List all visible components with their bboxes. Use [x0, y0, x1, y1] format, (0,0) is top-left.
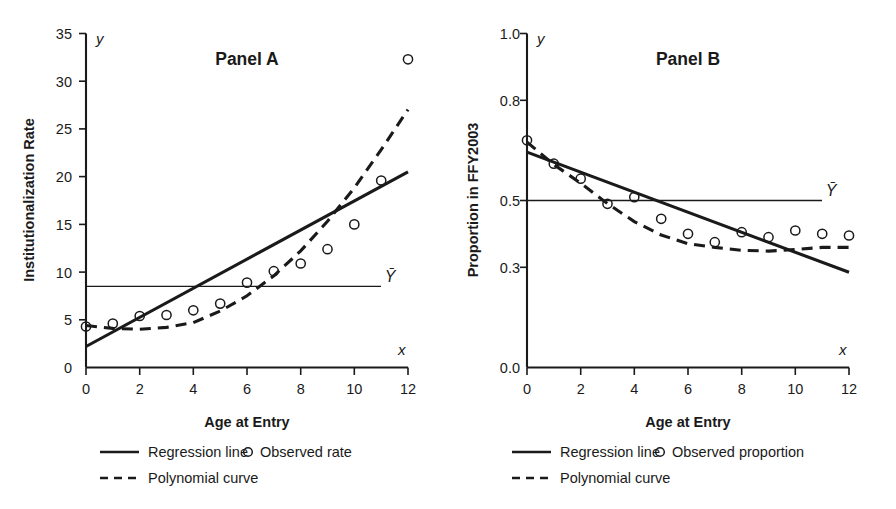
- panel-a-ytick-label: 5: [64, 312, 72, 328]
- panel-a-xlabel: Age at Entry: [204, 414, 289, 430]
- panel-a-legend-label: Polynomial curve: [148, 470, 258, 486]
- panel-a-data-point: [350, 220, 359, 229]
- panel-b-mean-label: Ȳ: [826, 182, 838, 199]
- panel-b-y-axis-symbol: y: [536, 30, 546, 47]
- panel-b-data-point: [764, 233, 773, 242]
- panel-a-xtick-label: 0: [82, 381, 90, 397]
- panel-a-regression-line: [86, 172, 408, 347]
- panel-b-data-point: [710, 238, 719, 247]
- panel-a-legend-label: Observed rate: [260, 444, 352, 460]
- panel-a-data-point: [323, 245, 332, 254]
- panel-a-plot: 35 30 25 20 15 10 5 0 y x: [0, 0, 448, 509]
- panel-a-legend-label: Regression line: [148, 444, 248, 460]
- panel-b-regression-line: [527, 152, 849, 272]
- panel-a-ytick-label: 25: [56, 121, 72, 137]
- panel-a-xtick-label: 6: [243, 381, 251, 397]
- panel-a-ytick-label: 15: [56, 217, 72, 233]
- panel-a-data-point: [216, 299, 225, 308]
- panel-b-xtick-label: 0: [523, 381, 531, 397]
- panel-b-polynomial-curve: [527, 142, 849, 251]
- panel-b-xtick-label: 4: [630, 381, 638, 397]
- panel-a-y-axis-symbol: y: [95, 30, 105, 47]
- panel-a-xtick-label: 2: [136, 381, 144, 397]
- panel-b-plot: 1.0 0.8 0.5 0.3 0.0 y x 0: [448, 0, 896, 509]
- panel-a-mean-label: Ȳ: [385, 268, 397, 285]
- panel-a-xtick-label: 4: [189, 381, 197, 397]
- panel-b-data-point: [576, 174, 585, 183]
- panel-b-xlabel: Age at Entry: [645, 414, 730, 430]
- panel-b-ytick-label: 0.0: [500, 360, 520, 376]
- panel-b-title: Panel B: [656, 49, 720, 69]
- panel-b-legend-label: Regression line: [560, 444, 660, 460]
- panel-a-ylabel: Institutionalization Rate: [21, 118, 37, 282]
- panel-a-data-point: [108, 319, 117, 328]
- panel-b-ylabel: Proportion in FFY2003: [465, 123, 481, 278]
- panel-a-data-point: [377, 176, 386, 185]
- panel-b-x-axis-symbol: x: [838, 341, 847, 358]
- panel-a-data-point: [403, 55, 412, 64]
- panel-a-data-point: [162, 310, 171, 319]
- panel-b-ytick-label: 1.0: [500, 26, 520, 42]
- panel-a-ytick-label: 20: [56, 169, 72, 185]
- panel-b-xtick-label: 2: [577, 381, 585, 397]
- panel-b-ytick-label: 0.5: [500, 193, 520, 209]
- panel-a-ytick-label: 10: [56, 265, 72, 281]
- figure-two-panel-scatter: 35 30 25 20 15 10 5 0 y x: [0, 0, 896, 509]
- panel-b-xtick-label: 10: [787, 381, 803, 397]
- panel-a-ytick-label: 0: [64, 360, 72, 376]
- panel-b: 1.0 0.8 0.5 0.3 0.0 y x 0: [448, 0, 896, 509]
- panel-a-xtick-label: 10: [346, 381, 362, 397]
- panel-b-ytick-label: 0.8: [500, 93, 520, 109]
- panel-a: 35 30 25 20 15 10 5 0 y x: [0, 0, 448, 509]
- panel-b-data-point: [683, 229, 692, 238]
- panel-a-polynomial-curve: [86, 110, 408, 330]
- panel-b-data-point: [791, 226, 800, 235]
- panel-b-data-point: [657, 214, 666, 223]
- panel-a-ytick-label: 35: [56, 26, 72, 42]
- panel-b-data-point: [844, 231, 853, 240]
- panel-a-data-point: [189, 306, 198, 315]
- panel-b-legend-label: Polynomial curve: [560, 470, 670, 486]
- panel-b-data-point: [818, 229, 827, 238]
- panel-a-ytick-label: 30: [56, 74, 72, 90]
- panel-a-x-axis-symbol: x: [397, 341, 406, 358]
- panel-a-data-point: [296, 259, 305, 268]
- panel-b-xtick-label: 6: [684, 381, 692, 397]
- panel-a-xtick-label: 12: [400, 381, 416, 397]
- panel-b-xtick-label: 8: [738, 381, 746, 397]
- panel-b-xtick-label: 12: [841, 381, 857, 397]
- panel-a-xtick-label: 8: [297, 381, 305, 397]
- panel-b-ytick-label: 0.3: [500, 260, 520, 276]
- panel-a-title: Panel A: [215, 49, 279, 69]
- panel-b-legend-label: Observed proportion: [672, 444, 804, 460]
